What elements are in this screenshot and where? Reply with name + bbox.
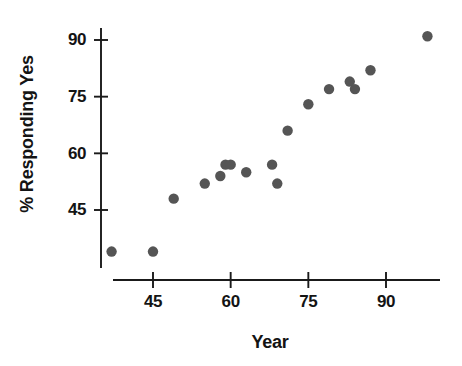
- y-axis-tick-label: 75: [68, 87, 86, 106]
- data-point: [200, 178, 210, 188]
- data-point: [169, 193, 179, 203]
- data-point: [324, 84, 334, 94]
- x-axis-group: 45607590: [113, 272, 440, 311]
- data-point: [225, 159, 235, 169]
- data-point: [303, 99, 313, 109]
- y-axis-title: % Responding Yes: [17, 55, 37, 213]
- data-point: [282, 125, 292, 135]
- x-axis-tick-label: 75: [299, 292, 317, 311]
- y-axis-group: 45607590: [68, 28, 108, 268]
- x-axis-tick-label: 60: [222, 292, 240, 311]
- plot-canvas: 45607590 45607590 Year % Responding Yes: [0, 0, 462, 366]
- data-point: [350, 84, 360, 94]
- data-point: [365, 65, 375, 75]
- scatter-plot-figure: 45607590 45607590 Year % Responding Yes: [0, 0, 462, 366]
- data-point: [215, 171, 225, 181]
- data-point: [148, 246, 158, 256]
- data-point: [267, 159, 277, 169]
- data-point: [272, 178, 282, 188]
- y-axis-tick-label: 90: [68, 30, 86, 49]
- data-point: [241, 167, 251, 177]
- x-axis-title: Year: [251, 332, 288, 352]
- x-axis-tick-label: 90: [377, 292, 395, 311]
- data-point: [422, 31, 432, 41]
- x-axis-tick-label: 45: [144, 292, 162, 311]
- y-axis-tick-labels: 45607590: [68, 30, 86, 219]
- data-points-group: [106, 31, 432, 257]
- y-axis-tick-label: 60: [68, 144, 86, 163]
- y-axis-tick-label: 45: [68, 200, 86, 219]
- data-point: [106, 246, 116, 256]
- x-axis-tick-labels: 45607590: [144, 292, 395, 311]
